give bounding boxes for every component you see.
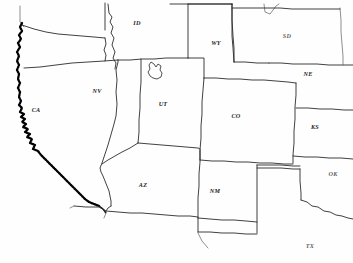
border-tx-panhandle-east [300, 169, 301, 200]
interior-west-group [106, 4, 204, 218]
state-label-id: ID [132, 19, 141, 26]
border-ut-az [138, 143, 200, 149]
map-svg: IDWYSDNENVUTCOKSCAOKAZNMTX [0, 0, 353, 263]
coastline-dotted [17, 23, 99, 206]
great-salt-lake-outline [148, 62, 162, 79]
state-label-az: AZ [138, 181, 147, 188]
border-nv-ut [138, 59, 141, 143]
great-salt-lake-group [148, 62, 162, 79]
border-or-id [104, 38, 106, 61]
border-sd-west [269, 63, 353, 65]
state-label-ne: NE [303, 70, 313, 77]
border-nm-bootheel [198, 232, 257, 234]
state-label-tx: TX [306, 242, 315, 249]
border-wy-co [204, 78, 296, 83]
border-id-mt [108, 4, 116, 69]
scan-artifacts-group [70, 206, 208, 248]
pacific-northwest-group [22, 25, 118, 68]
border-az-mexico [106, 211, 198, 217]
rockies-group [188, 4, 296, 234]
border-sd-north [232, 8, 340, 9]
california-group [74, 60, 118, 211]
state-label-ut: UT [159, 100, 168, 107]
border-ca-nv [100, 60, 118, 206]
border-ok-panhandle-bottom [257, 168, 300, 169]
border-wy-east [234, 62, 269, 63]
border-id-ut [118, 58, 188, 60]
border-ks-ok [293, 156, 353, 159]
border-ok-panhandle-top [257, 165, 300, 166]
border-co-nm [200, 160, 293, 164]
artifact-line-bottom-left [70, 206, 74, 208]
border-ut-co [200, 78, 204, 160]
state-label-ks: KS [310, 123, 319, 130]
artifact-line-az-south-tail [104, 213, 106, 218]
nevada-group [102, 59, 141, 164]
border-ut-wy-notch [188, 58, 204, 78]
state-label-wy: WY [211, 39, 222, 46]
great-plains-group [232, 8, 353, 219]
state-label-co: CO [232, 112, 241, 119]
border-ca-az [106, 206, 111, 211]
border-ca-mexico [74, 206, 106, 211]
border-wa-or [22, 25, 105, 38]
border-nd-north [264, 4, 279, 14]
pacific-coastline-group [17, 23, 106, 213]
state-label-ca: CA [32, 106, 41, 113]
state-label-layer: IDWYSDNENVUTCOKSCAOKAZNMTX [32, 19, 338, 249]
border-ne-ks [296, 108, 353, 110]
border-tx-ok-red-river [301, 200, 353, 219]
state-label-ok: OK [329, 170, 339, 177]
border-co-east [293, 83, 296, 163]
border-nm-mexico [198, 218, 257, 222]
border-sd-east [340, 8, 343, 65]
state-label-nv: NV [92, 87, 103, 94]
state-label-sd: SD [283, 32, 292, 39]
state-label-nm: NM [209, 187, 221, 194]
border-or-ca-nv [24, 60, 118, 68]
artifact-line-tx-south [198, 233, 208, 248]
map-canvas: IDWYSDNENVUTCOKSCAOKAZNMTX Western Unite… [0, 0, 353, 263]
